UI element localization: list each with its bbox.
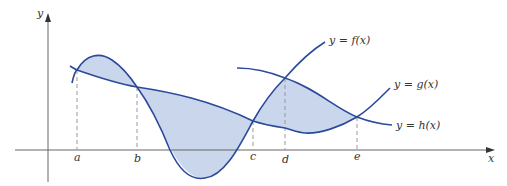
area-between-curves-diagram: y x a b c d e y = f(x) y = g(x) y = h(x) (0, 0, 507, 186)
point-b-label: b (134, 152, 141, 165)
x-axis-label: x (488, 152, 495, 165)
point-d-label: d (282, 153, 289, 166)
curve-g-label: y = g(x) (393, 78, 438, 91)
curve-h-label: y = h(x) (395, 119, 440, 132)
y-axis-arrow-icon (45, 13, 51, 22)
region-c-d (253, 78, 285, 128)
point-e-label: e (354, 150, 361, 163)
shaded-regions (77, 55, 357, 178)
point-a-label: a (74, 151, 81, 164)
curve-f-label: y = f(x) (328, 34, 370, 47)
region-d-e (285, 78, 357, 133)
curves (70, 42, 392, 178)
y-axis-label: y (36, 7, 44, 20)
region-b-c (137, 87, 253, 178)
point-c-label: c (250, 150, 256, 163)
